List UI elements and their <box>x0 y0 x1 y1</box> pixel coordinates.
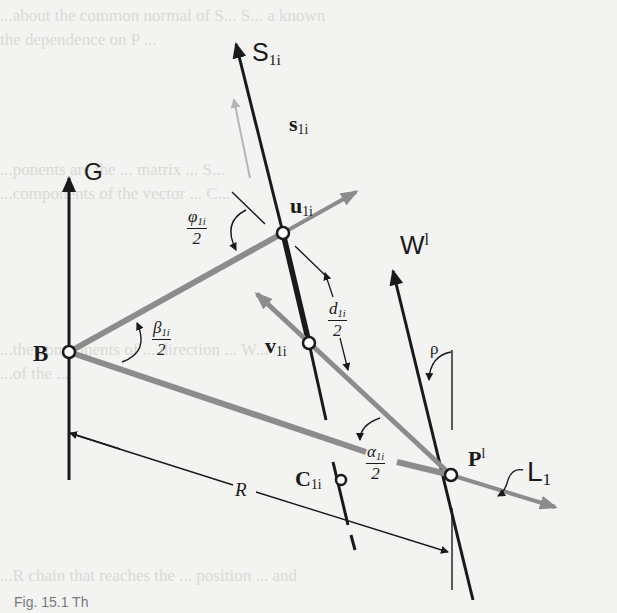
label-rho: ρ <box>430 340 438 357</box>
joints <box>63 227 457 485</box>
alpha-symbol: α <box>367 442 376 461</box>
d-half-numerator: d1i <box>328 300 347 321</box>
alpha-sub: 1i <box>376 451 384 462</box>
d-sub: 1i <box>338 308 346 319</box>
alpha-angle-arc <box>360 418 380 440</box>
d-arrow-down <box>340 338 348 370</box>
label-l1: L1 <box>527 458 551 489</box>
label-s-unit-sub: 1i <box>298 122 309 137</box>
label-w-base: W <box>400 230 425 260</box>
label-c: C1i <box>295 468 322 492</box>
joint-b <box>63 346 75 358</box>
label-u: u1i <box>290 195 313 219</box>
alpha-half-denominator: 2 <box>366 464 385 482</box>
label-w: Wl <box>400 232 429 258</box>
label-p-sup: l <box>481 446 485 461</box>
figure-stage: ...about the common normal of S... S... … <box>0 0 617 613</box>
label-p-base: P <box>468 446 481 471</box>
d-symbol: d <box>329 299 338 318</box>
beta-half-denominator: 2 <box>152 340 171 358</box>
beta-half-numerator: β1i <box>152 319 171 340</box>
phi-angle-arc <box>231 210 246 250</box>
label-alpha-half: α1i 2 <box>366 443 385 482</box>
label-v-sub: 1i <box>276 344 287 359</box>
label-s-axis-sub: 1i <box>269 51 281 68</box>
phi-half-denominator: 2 <box>187 229 207 247</box>
label-c-sub: 1i <box>311 477 322 492</box>
label-g: G <box>84 160 103 184</box>
label-beta-half: β1i 2 <box>152 319 171 358</box>
d-half-denominator: 2 <box>328 321 347 339</box>
d-arrow-up <box>325 273 333 297</box>
label-b: B <box>33 342 48 365</box>
s-unit-vector <box>234 100 250 178</box>
label-c-base: C <box>295 466 311 491</box>
label-u-base: u <box>290 193 302 218</box>
phi-sub: 1i <box>197 216 205 227</box>
label-s-axis: S1i <box>252 40 281 67</box>
joint-c <box>336 475 346 485</box>
label-s-axis-base: S <box>252 38 269 66</box>
joint-p <box>445 469 457 481</box>
figure-caption: Fig. 15.1 Th <box>14 594 88 610</box>
alpha-half-numerator: α1i <box>366 443 385 464</box>
r-dimension-arrow-left <box>70 433 120 449</box>
beta-sub: 1i <box>161 327 169 338</box>
phi-half-numerator: φ1i <box>187 208 207 229</box>
joint-v <box>303 337 315 349</box>
label-u-sub: 1i <box>302 204 313 219</box>
label-s-unit: s1i <box>289 113 308 137</box>
label-w-sup: l <box>425 231 429 248</box>
label-v-base: v <box>265 333 276 358</box>
label-r: R <box>235 480 247 499</box>
joint-u <box>277 227 289 239</box>
diagram-svg <box>0 0 617 613</box>
beta-angle-arc <box>122 323 141 362</box>
label-l1-sub: 1 <box>543 470 552 489</box>
label-s-unit-base: s <box>289 111 298 136</box>
phi-symbol: φ <box>188 207 197 226</box>
label-p: Pl <box>468 447 485 470</box>
label-l1-base: L <box>527 456 543 487</box>
label-phi-half: φ1i 2 <box>187 208 207 247</box>
label-d-half: d1i 2 <box>328 300 347 339</box>
link-b-u <box>69 233 283 352</box>
label-v: v1i <box>265 335 287 359</box>
